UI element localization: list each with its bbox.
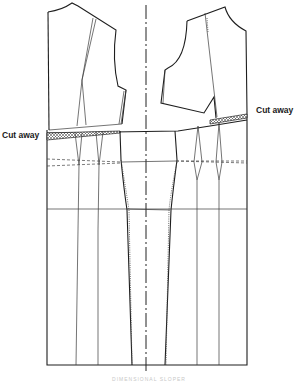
front-darts — [194, 123, 222, 365]
back-darts — [75, 132, 103, 365]
side-seam-right — [165, 131, 177, 365]
back-bodice — [48, 3, 126, 130]
figure-caption: DIMENSIONAL SLOPER — [0, 376, 298, 382]
side-seam-left — [120, 131, 132, 365]
pattern-diagram — [0, 0, 298, 385]
cut-away-label-right: Cut away — [256, 105, 293, 115]
cut-away-label-left: Cut away — [2, 130, 39, 140]
cut-away-strip-left — [47, 131, 120, 140]
front-bodice — [161, 7, 247, 118]
